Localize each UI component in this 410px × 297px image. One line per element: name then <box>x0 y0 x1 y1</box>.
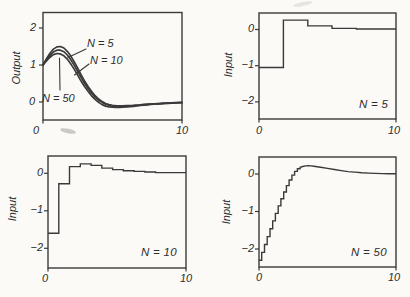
curve-label-n10: N = 10 <box>90 54 123 66</box>
input-n5-ytick-m1: −1 <box>232 58 254 71</box>
output-xtick-10: 10 <box>172 124 192 137</box>
curve-label-n5: N = 5 <box>87 37 114 49</box>
input-n50-xtick-10: 10 <box>384 271 404 284</box>
input-n50-ytick-m2: −2 <box>232 242 254 255</box>
input-n10-y-axis-label: Input <box>6 197 18 221</box>
plot-canvas <box>0 0 410 297</box>
input-n50-ytick-0: 0 <box>232 167 254 180</box>
input-n10-ytick-0: 0 <box>21 166 43 179</box>
input-n10-ytick-m2: −2 <box>21 241 43 254</box>
output-ytick-2: 2 <box>14 21 36 34</box>
input-n50-xtick-0: 0 <box>249 271 269 284</box>
input-n5-ytick-m2: −2 <box>232 94 254 107</box>
input-n5-xtick-10: 10 <box>384 124 404 137</box>
output-ytick-1: 1 <box>14 58 36 71</box>
input-n5-xtick-0: 0 <box>249 124 269 137</box>
input-n10-ytick-m1: −1 <box>21 203 43 216</box>
curve-label-n50: N = 50 <box>42 92 75 104</box>
panel-label-n10: N = 10 <box>141 246 177 258</box>
panel-label-n5: N = 5 <box>359 98 388 110</box>
input-n50-ytick-m1: −1 <box>232 204 254 217</box>
input-n10-xtick-0: 0 <box>35 272 55 285</box>
input-n50-y-axis-label: Input <box>220 200 232 224</box>
input-n10-xtick-10: 10 <box>176 272 196 285</box>
panel-label-n50: N = 50 <box>351 246 387 258</box>
output-ytick-0: 0 <box>13 95 35 108</box>
figure-four-panel-plot: Output 2 1 0 0 10 N = 5 N = 10 N = 50 In… <box>0 0 410 297</box>
output-xtick-0: 0 <box>26 124 46 137</box>
input-n5-ytick-0: 0 <box>232 22 254 35</box>
